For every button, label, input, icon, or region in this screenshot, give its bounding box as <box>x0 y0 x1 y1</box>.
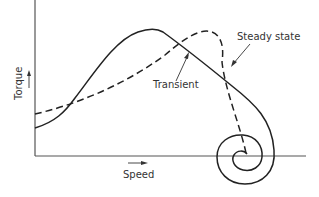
transient-curve <box>35 29 274 184</box>
y-axis-arrow-icon <box>27 70 31 76</box>
y-axis-label: Torque <box>13 67 24 101</box>
transient-arrowhead <box>184 52 189 59</box>
steady-state-arrowhead <box>231 60 237 67</box>
torque-speed-diagram: Transient Steady state Torque Speed <box>0 0 319 197</box>
steady-state-curve <box>35 31 246 153</box>
steady-state-label: Steady state <box>237 31 300 42</box>
steady-state-pointer <box>233 44 250 64</box>
x-axis-arrow-icon <box>141 161 148 165</box>
x-axis-label: Speed <box>123 169 154 180</box>
transient-pointer <box>176 55 188 81</box>
transient-label: Transient <box>152 79 199 90</box>
